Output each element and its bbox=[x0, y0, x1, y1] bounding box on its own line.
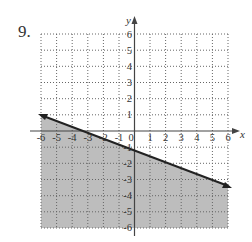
line-arrow-right-icon bbox=[222, 182, 232, 188]
svg-text:6: 6 bbox=[225, 132, 230, 143]
y-axis-arrow-icon bbox=[132, 16, 138, 24]
svg-text:-1: -1 bbox=[123, 142, 132, 153]
svg-text:-5: -5 bbox=[52, 132, 61, 143]
x-axis-label: x bbox=[239, 128, 245, 140]
svg-text:1: 1 bbox=[147, 132, 152, 143]
svg-text:2: 2 bbox=[163, 132, 168, 143]
svg-text:-4: -4 bbox=[123, 190, 132, 201]
svg-text:2: 2 bbox=[127, 93, 132, 104]
svg-text:-2: -2 bbox=[123, 158, 132, 169]
svg-text:3: 3 bbox=[179, 132, 184, 143]
svg-text:-1: -1 bbox=[115, 132, 124, 143]
svg-text:4: 4 bbox=[194, 132, 200, 143]
svg-text:-5: -5 bbox=[123, 206, 132, 217]
svg-text:-3: -3 bbox=[123, 174, 132, 185]
svg-text:-3: -3 bbox=[83, 132, 92, 143]
svg-text:1: 1 bbox=[127, 109, 132, 120]
inequality-graph: x y -6 -5 -4 -3 -2 -1 0 1 2 3 4 5 6 6 5 … bbox=[0, 0, 252, 242]
svg-text:3: 3 bbox=[127, 77, 132, 88]
svg-text:6: 6 bbox=[127, 29, 132, 40]
svg-text:-6: -6 bbox=[37, 132, 46, 143]
svg-text:-6: -6 bbox=[123, 222, 132, 233]
svg-text:-4: -4 bbox=[68, 132, 77, 143]
svg-text:5: 5 bbox=[210, 132, 215, 143]
y-axis-label: y bbox=[125, 14, 131, 26]
x-axis-arrow-icon bbox=[232, 128, 240, 134]
svg-text:-2: -2 bbox=[99, 132, 108, 143]
svg-text:5: 5 bbox=[127, 45, 132, 56]
svg-text:4: 4 bbox=[127, 61, 133, 72]
